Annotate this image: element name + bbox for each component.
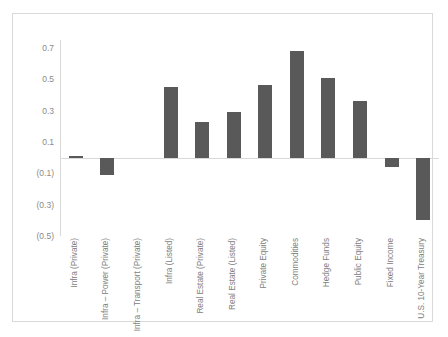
x-axis-tick-label: Hedge Funds bbox=[323, 238, 331, 287]
x-axis-tick-label: Private Equity bbox=[260, 238, 268, 289]
plot-inner: 0.70.50.30.1(0.1)(0.3)(0.5) bbox=[60, 40, 439, 236]
x-axis-tick-label: Public Equity bbox=[355, 238, 363, 285]
plot-area: 0.70.50.30.1(0.1)(0.3)(0.5) bbox=[60, 40, 439, 236]
y-axis-tick-label: 0.1 bbox=[42, 138, 54, 147]
zero-baseline bbox=[60, 158, 439, 159]
bar bbox=[195, 122, 209, 158]
bar bbox=[69, 156, 83, 158]
y-axis-tick-label: 0.3 bbox=[42, 106, 54, 115]
x-axis-tick-label: Infra – Power (Private) bbox=[102, 238, 110, 320]
bar bbox=[100, 158, 114, 175]
y-axis-tick-label: 0.7 bbox=[42, 44, 54, 53]
bar bbox=[416, 158, 430, 221]
y-axis-tick-label: (0.3) bbox=[37, 200, 54, 209]
x-axis-labels: Infra (Private)Infra – Power (Private)In… bbox=[60, 238, 439, 337]
bar bbox=[227, 112, 241, 157]
bar bbox=[164, 87, 178, 158]
bar bbox=[385, 158, 399, 167]
x-axis-tick-label: Infra (Private) bbox=[71, 238, 79, 288]
bar bbox=[321, 78, 335, 158]
y-axis-tick-label: (0.5) bbox=[37, 232, 54, 241]
y-axis-tick-label: (0.1) bbox=[37, 169, 54, 178]
y-axis-line bbox=[60, 40, 61, 236]
bar bbox=[258, 85, 272, 157]
x-axis-tick-label: Real Estate (Private) bbox=[197, 238, 205, 314]
y-axis-tick-label: 0.5 bbox=[42, 75, 54, 84]
x-axis-tick-label: Infra (Listed) bbox=[166, 238, 174, 284]
x-axis-tick-label: Infra – Transport (Private) bbox=[134, 238, 142, 331]
x-axis-tick-label: Fixed Income bbox=[387, 238, 395, 287]
x-axis-tick-label: Commodities bbox=[292, 238, 300, 286]
x-axis-tick-label: U.S. 10-Year Treasury bbox=[418, 238, 426, 319]
bar bbox=[290, 51, 304, 158]
bar bbox=[353, 101, 367, 157]
x-axis-tick-label: Real Estate (Listed) bbox=[229, 238, 237, 310]
chart-frame: 0.70.50.30.1(0.1)(0.3)(0.5) Infra (Priva… bbox=[12, 13, 433, 322]
